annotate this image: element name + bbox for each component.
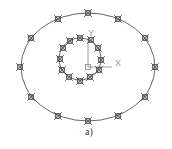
node-marker-icon: [27, 93, 35, 101]
node-marker-icon: [27, 34, 35, 42]
node-marker-icon: [65, 73, 73, 81]
outer-node-markers: [16, 9, 159, 125]
node-marker-icon: [86, 73, 94, 81]
node-marker-icon: [95, 66, 103, 74]
node-marker-icon: [114, 15, 122, 23]
node-marker-icon: [16, 63, 24, 71]
node-marker-icon: [59, 44, 67, 52]
node-marker-icon: [151, 63, 159, 71]
node-marker-icon: [84, 9, 92, 17]
node-marker-icon: [54, 15, 62, 23]
inner-node-markers: [56, 34, 105, 85]
node-marker-icon: [66, 37, 74, 45]
node-marker-icon: [84, 117, 92, 125]
node-marker-icon: [141, 93, 149, 101]
node-marker-icon: [141, 34, 149, 42]
ucs-x-label: X: [115, 59, 121, 68]
node-marker-icon: [97, 56, 105, 64]
node-marker-icon: [94, 44, 102, 52]
node-marker-icon: [58, 66, 66, 74]
ucs-y-label: Y: [88, 29, 94, 38]
node-marker-icon: [54, 112, 62, 120]
node-marker-icon: [76, 77, 84, 85]
node-marker-icon: [56, 55, 64, 63]
node-marker-icon: [114, 112, 122, 120]
figure-caption: a): [78, 126, 100, 137]
node-marker-icon: [76, 34, 84, 42]
